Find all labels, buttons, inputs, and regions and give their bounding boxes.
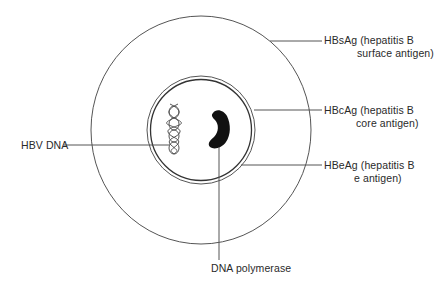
- hbeag-label-line2: e antigen): [354, 172, 402, 185]
- hbsag-label-line2: surface antigen): [357, 47, 434, 60]
- dna-polymerase-label: DNA polymerase: [211, 262, 291, 275]
- core-inner-ring: [151, 80, 252, 181]
- hbsag-label-line1: HBsAg (hepatitis B: [324, 34, 414, 47]
- hbv-dna-label: HBV DNA: [21, 139, 68, 152]
- hbeag-label-line1: HBeAg (hepatitis B: [324, 159, 415, 172]
- core-outer-ring: [147, 76, 255, 184]
- dna-helix-icon: [167, 104, 182, 154]
- dna-polymerase-shape: [209, 110, 230, 148]
- hbv-structure-diagram: HBsAg (hepatitis B surface antigen) HBcA…: [0, 0, 443, 291]
- hbcag-label-line1: HBcAg (hepatitis B: [324, 104, 414, 117]
- hbcag-label-line2: core antigen): [356, 117, 419, 130]
- outer-envelope-circle: [91, 16, 311, 244]
